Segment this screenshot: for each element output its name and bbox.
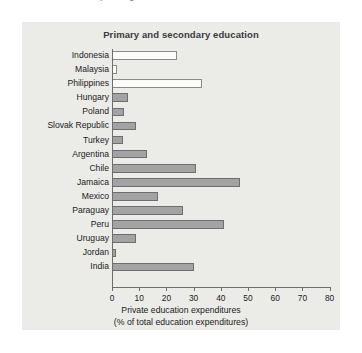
bar bbox=[112, 136, 123, 145]
chart-panel: Primary and secondary education Indonesi… bbox=[22, 22, 340, 330]
bar bbox=[112, 263, 194, 272]
bar-row: Turkey bbox=[22, 134, 340, 148]
bar-row: Paraguay bbox=[22, 204, 340, 218]
bar bbox=[112, 65, 117, 74]
bar bbox=[112, 234, 136, 243]
bar-category-label: Peru bbox=[0, 219, 109, 230]
x-axis-tick-label: 30 bbox=[189, 293, 198, 303]
bar-row: Poland bbox=[22, 105, 340, 119]
figure-caption-strip: FIGURE 3.5 Private spending on education… bbox=[0, 0, 362, 9]
x-axis-tick-label: 70 bbox=[298, 293, 307, 303]
x-axis-tick-label: 50 bbox=[243, 293, 252, 303]
x-axis-tick bbox=[221, 287, 222, 291]
bar-row: India bbox=[22, 260, 340, 274]
x-axis-title: Private education expenditures (% of tot… bbox=[22, 305, 340, 328]
bar-row: Hungary bbox=[22, 91, 340, 105]
plot-area: IndonesiaMalaysiaPhilippinesHungaryPolan… bbox=[22, 49, 340, 287]
bar bbox=[112, 93, 128, 102]
x-axis-tick bbox=[275, 287, 276, 291]
x-axis-tick bbox=[166, 287, 167, 291]
bar bbox=[112, 220, 224, 229]
x-axis-tick-label: 0 bbox=[110, 293, 115, 303]
bar-category-label: Paraguay bbox=[0, 205, 109, 216]
bar bbox=[112, 249, 116, 258]
y-axis-line bbox=[112, 49, 113, 287]
x-axis-title-line2: (% of total education expenditures) bbox=[22, 317, 340, 329]
bar-row: Peru bbox=[22, 218, 340, 232]
bar-category-label: Poland bbox=[0, 106, 109, 117]
bar-row: Chile bbox=[22, 162, 340, 176]
bar-category-label: Uruguay bbox=[0, 233, 109, 244]
bar bbox=[112, 51, 177, 60]
bar-row: Argentina bbox=[22, 148, 340, 162]
bar-category-label: Malaysia bbox=[0, 64, 109, 75]
bar-category-label: Argentina bbox=[0, 149, 109, 160]
bar bbox=[112, 192, 158, 201]
bar bbox=[112, 150, 147, 159]
x-axis-tick bbox=[302, 287, 303, 291]
x-axis-line: 01020304050607080 bbox=[112, 287, 330, 288]
bar bbox=[112, 79, 202, 88]
figure-caption-text: FIGURE 3.5 Private spending on education… bbox=[12, 0, 195, 1]
x-axis-tick bbox=[194, 287, 195, 291]
bar-category-label: Mexico bbox=[0, 191, 109, 202]
x-axis-tick bbox=[330, 287, 331, 291]
chart-title: Primary and secondary education bbox=[22, 29, 340, 40]
bar-category-label: Hungary bbox=[0, 92, 109, 103]
x-axis-tick bbox=[112, 287, 113, 291]
x-axis-tick-label: 40 bbox=[216, 293, 225, 303]
bar-row: Mexico bbox=[22, 190, 340, 204]
bar-category-label: Chile bbox=[0, 163, 109, 174]
bar bbox=[112, 164, 196, 173]
bar bbox=[112, 108, 124, 117]
x-axis-title-line1: Private education expenditures bbox=[22, 305, 340, 317]
bar-row: Jamaica bbox=[22, 176, 340, 190]
bar bbox=[112, 122, 136, 131]
bar-category-label: India bbox=[0, 261, 109, 272]
x-axis-tick-label: 60 bbox=[271, 293, 280, 303]
x-axis-tick-label: 10 bbox=[135, 293, 144, 303]
bar-row: Indonesia bbox=[22, 49, 340, 63]
x-axis-tick-label: 20 bbox=[162, 293, 171, 303]
bar bbox=[112, 178, 240, 187]
bar-category-label: Slovak Republic bbox=[0, 120, 109, 131]
bar-category-label: Philippines bbox=[0, 78, 109, 89]
bar-category-label: Jordan bbox=[0, 247, 109, 258]
bar-row: Philippines bbox=[22, 77, 340, 91]
bar-category-label: Jamaica bbox=[0, 177, 109, 188]
bar-row: Slovak Republic bbox=[22, 119, 340, 133]
x-axis-tick bbox=[139, 287, 140, 291]
bar bbox=[112, 206, 183, 215]
x-axis-tick bbox=[248, 287, 249, 291]
bar-category-label: Indonesia bbox=[0, 50, 109, 61]
bar-category-label: Turkey bbox=[0, 135, 109, 146]
bar-row: Uruguay bbox=[22, 232, 340, 246]
bar-row: Jordan bbox=[22, 246, 340, 260]
x-axis-tick-label: 80 bbox=[325, 293, 334, 303]
bar-row: Malaysia bbox=[22, 63, 340, 77]
